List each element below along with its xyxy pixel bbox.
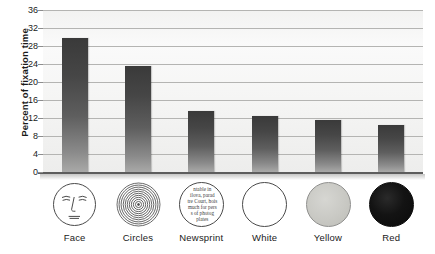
- category-label: Circles: [107, 232, 169, 243]
- y-tick-label: 36: [16, 6, 38, 15]
- category-label: Face: [44, 232, 106, 243]
- fixation-time-bar-chart: Percent of fixation time 048121620242832…: [0, 0, 435, 254]
- gridline: [43, 82, 423, 83]
- y-tick-mark: [38, 46, 43, 47]
- category-icon-cell: Circles: [107, 182, 169, 243]
- category-icon-cell: Face: [44, 182, 106, 243]
- y-tick-mark: [38, 118, 43, 119]
- y-tick-mark: [38, 82, 43, 83]
- y-tick-mark: [38, 64, 43, 65]
- gridline: [43, 64, 423, 65]
- concentric-circles-icon: [116, 182, 161, 227]
- y-tick-label: 28: [16, 42, 38, 51]
- bar: [315, 120, 341, 172]
- category-icon-row: FaceCirclesntable inilova, paradtre Cour…: [43, 182, 423, 254]
- category-icon-cell: Red: [360, 182, 422, 243]
- y-tick-label: 0: [16, 168, 38, 177]
- red-disc-icon: [369, 182, 414, 227]
- face-icon: [52, 182, 97, 227]
- y-tick-label: 24: [16, 60, 38, 69]
- bar: [125, 66, 151, 172]
- yellow-disc-icon: [306, 182, 351, 227]
- category-icon-cell: ntable inilova, paradtre Court, hoismuch…: [170, 182, 232, 243]
- y-tick-mark: [38, 28, 43, 29]
- category-label: Yellow: [297, 232, 359, 243]
- bar: [378, 125, 404, 172]
- y-tick-label: 4: [16, 150, 38, 159]
- bar: [62, 38, 88, 172]
- gridline: [43, 46, 423, 47]
- gridline: [43, 118, 423, 119]
- y-tick-mark: [38, 154, 43, 155]
- newsprint-text: ntable inilova, paradtre Court, hoismuch…: [180, 183, 224, 227]
- gridline: [43, 28, 423, 29]
- y-tick-mark: [38, 100, 43, 101]
- plot-area: [43, 10, 423, 172]
- white-disc-icon: [242, 182, 287, 227]
- x-axis-shadow: [40, 174, 425, 180]
- gridline: [43, 136, 423, 137]
- y-tick-label: 8: [16, 132, 38, 141]
- bar: [252, 116, 278, 172]
- gridline: [43, 154, 423, 155]
- y-tick-mark: [38, 172, 43, 173]
- category-label: White: [234, 232, 296, 243]
- y-tick-label: 12: [16, 114, 38, 123]
- y-axis-tick-labels: 04812162024283236: [16, 0, 38, 180]
- category-icon-cell: Yellow: [297, 182, 359, 243]
- newsprint-icon: ntable inilova, paradtre Court, hoismuch…: [179, 182, 224, 227]
- y-tick-mark: [38, 10, 43, 11]
- gridline: [43, 10, 423, 11]
- category-label: Newsprint: [170, 232, 232, 243]
- gridline: [43, 100, 423, 101]
- newsprint-text-line: plates: [181, 216, 224, 222]
- bar: [188, 111, 214, 172]
- y-tick-label: 16: [16, 96, 38, 105]
- y-tick-label: 20: [16, 78, 38, 87]
- category-label: Red: [360, 232, 422, 243]
- y-tick-mark: [38, 136, 43, 137]
- category-icon-cell: White: [234, 182, 296, 243]
- y-tick-label: 32: [16, 24, 38, 33]
